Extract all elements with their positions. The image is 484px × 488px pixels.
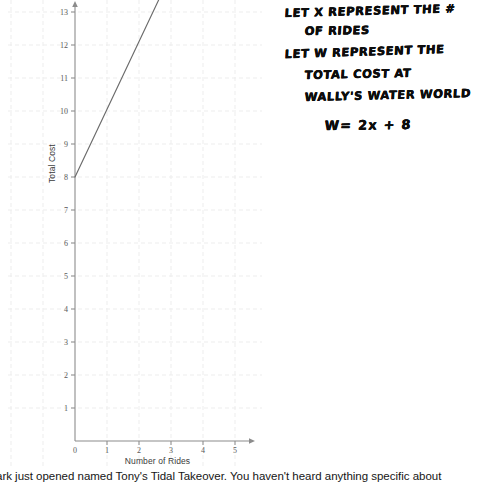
handwritten-equation: W= 2x + 8 (324, 117, 412, 133)
document-body-text: ark just opened named Tony's Tidal Takeo… (0, 469, 484, 484)
y-tick-label: 7 (64, 206, 68, 215)
y-tick-label: 11 (60, 74, 68, 83)
handwritten-line-1: LET X REPRESENT THE # (284, 1, 456, 20)
y-tick-label: 9 (64, 140, 68, 149)
y-tick-label: 4 (64, 305, 68, 314)
y-axis-title: Total Cost (47, 144, 57, 183)
cost-line-series (75, 0, 161, 177)
y-tick-label: 3 (64, 338, 68, 347)
x-tick-label: 5 (233, 446, 237, 455)
y-tick-label: 12 (60, 41, 68, 50)
y-tick-label: 1 (64, 404, 68, 413)
x-axis (75, 438, 255, 445)
x-tick-label: 3 (169, 446, 173, 455)
x-tick-label: 2 (137, 446, 141, 455)
y-tick-label: 2 (64, 371, 68, 380)
handwritten-line-5: WALLY'S WATER WORLD (304, 86, 471, 104)
y-tick-labels: 1 2 3 4 5 6 7 8 9 10 11 12 13 (60, 8, 68, 413)
handwritten-notes: LET X REPRESENT THE # OF RIDES LET W REP… (283, 2, 484, 148)
y-tick-label: 5 (64, 272, 68, 281)
y-tick-label: 10 (60, 107, 68, 116)
handwritten-line-3: LET W REPRESENT THE (284, 42, 445, 61)
graph-figure: 1 2 3 4 5 6 7 8 9 10 11 12 13 0 1 2 3 4 … (0, 0, 290, 470)
y-tick-label: 8 (64, 173, 68, 182)
y-tick-label: 13 (60, 8, 68, 17)
y-tick-label: 6 (64, 239, 68, 248)
coordinate-plane: 1 2 3 4 5 6 7 8 9 10 11 12 13 0 1 2 3 4 … (0, 0, 290, 470)
document-body-line: ark just opened named Tony's Tidal Takeo… (0, 469, 441, 484)
handwritten-line-4: TOTAL COST AT (304, 66, 412, 82)
x-tick-label: 4 (201, 446, 205, 455)
handwritten-line-2: OF RIDES (304, 23, 370, 38)
x-axis-title: Number of Rides (75, 456, 240, 466)
horizontal-gridlines (8, 12, 262, 408)
vertical-gridlines (11, 0, 235, 466)
x-tick-label: 0 (73, 446, 77, 455)
y-axis (71, 1, 78, 441)
x-tick-label: 1 (105, 446, 109, 455)
x-tick-labels: 0 1 2 3 4 5 (73, 446, 237, 455)
